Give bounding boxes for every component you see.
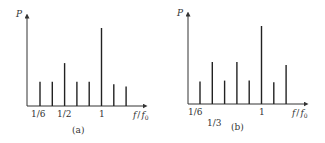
y-axis-label: P	[15, 9, 23, 19]
panel-caption-b: (b)	[231, 122, 244, 132]
tick-label-1-2: 1/2	[57, 109, 71, 119]
stems	[40, 28, 126, 106]
x-axis-label: f/f0	[132, 110, 149, 121]
tick-label-1: 1	[259, 107, 265, 117]
panel-caption-a: (a)	[72, 125, 84, 135]
tick-label-1-6: 1/6	[31, 109, 46, 119]
tick-label-1-6: 1/6	[188, 107, 203, 117]
spectrum-figure: P 1/6 1/2 1 f/f0 (a) P 1/6 1/3 1 f/f0 (b…	[0, 0, 325, 143]
stems	[200, 26, 286, 104]
tick-label-1: 1	[99, 109, 105, 119]
chart-panel-b: P 1/6 1/3 1 f/f0 (b)	[176, 8, 308, 132]
tick-label-1-3: 1/3	[207, 118, 222, 128]
chart-panel-a: P 1/6 1/2 1 f/f0 (a)	[15, 9, 149, 135]
y-axis-label: P	[176, 8, 184, 18]
x-axis-label: f/f0	[291, 108, 308, 119]
